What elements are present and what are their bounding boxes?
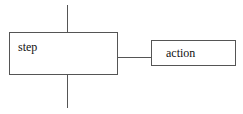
step-label: step xyxy=(18,40,37,55)
top-connector-line xyxy=(67,5,68,32)
action-label: action xyxy=(166,46,195,61)
step-action-connector-line xyxy=(118,57,151,58)
step-box: step xyxy=(9,32,118,75)
bottom-connector-line xyxy=(67,75,68,108)
action-box: action xyxy=(151,40,236,66)
